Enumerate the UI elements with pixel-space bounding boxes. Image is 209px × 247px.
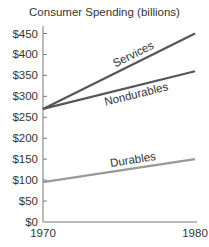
y-tick-label: $50: [19, 195, 38, 207]
y-tick-label: $250: [12, 111, 38, 123]
x-axis-ticks: 19701980: [30, 227, 208, 239]
series-lines: ServicesNondurablesDurables: [43, 34, 195, 183]
y-tick-label: $200: [12, 132, 38, 144]
series-label-nondurables: Nondurables: [103, 80, 169, 107]
y-tick-label: $350: [12, 69, 38, 81]
y-tick-label: $400: [12, 48, 38, 60]
x-tick-label: 1970: [30, 227, 56, 239]
line-chart: $0$50$100$150$200$250$300$350$400$450 19…: [0, 0, 209, 247]
y-tick-label: $300: [12, 90, 38, 102]
y-axis-ticks: $0$50$100$150$200$250$300$350$400$450: [12, 28, 47, 229]
y-tick-label: $100: [12, 174, 38, 186]
x-tick-label: 1980: [182, 227, 208, 239]
y-tick-label: $150: [12, 153, 38, 165]
y-tick-label: $450: [12, 28, 38, 40]
